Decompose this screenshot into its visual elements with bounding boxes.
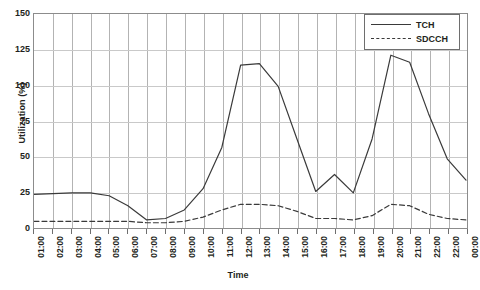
- x-tick-mark: [146, 229, 147, 234]
- x-tick-mark: [316, 229, 317, 234]
- x-tick-mark: [278, 229, 279, 234]
- x-tick-mark: [127, 229, 128, 234]
- legend-item-label: SDCCH: [413, 34, 448, 44]
- x-tick-label: 13:00: [263, 236, 272, 258]
- x-tick-label: 10:00: [207, 236, 216, 258]
- y-axis-tick-labels: 0255075100125150: [0, 0, 30, 290]
- legend-item: TCH: [369, 18, 455, 32]
- y-tick-label: 50: [0, 151, 30, 161]
- x-tick-label: 11:00: [226, 236, 235, 257]
- x-tick-label: 04:00: [94, 236, 103, 258]
- x-tick-mark: [410, 229, 411, 234]
- x-tick-mark: [241, 229, 242, 234]
- x-tick-label: 02:00: [56, 236, 65, 258]
- y-tick-label: 100: [0, 80, 30, 90]
- x-tick-label: 08:00: [169, 236, 178, 258]
- x-tick-label: 22:00: [452, 236, 461, 258]
- x-tick-label: 01:00: [37, 236, 46, 258]
- x-tick-mark: [203, 229, 204, 234]
- x-tick-mark: [52, 229, 53, 234]
- x-tick-label: 18:00: [358, 236, 367, 258]
- x-tick-label: 05:00: [112, 236, 121, 258]
- x-tick-label: 20:00: [396, 236, 405, 258]
- y-tick-label: 125: [0, 44, 30, 54]
- y-tick-label: 0: [0, 223, 30, 233]
- x-tick-mark: [335, 229, 336, 234]
- x-tick-label: 00:00: [471, 236, 480, 258]
- chart-legend: TCHSDCCH: [364, 14, 460, 50]
- x-tick-label: 17:00: [339, 236, 348, 258]
- x-tick-label: 21:00: [414, 236, 423, 258]
- legend-line-swatch: [369, 20, 413, 30]
- x-tick-label: 09:00: [188, 236, 197, 258]
- x-tick-mark: [392, 229, 393, 234]
- y-tick-label: 150: [0, 8, 30, 18]
- x-tick-mark: [71, 229, 72, 234]
- x-tick-label: 14:00: [282, 236, 291, 258]
- series-line-sdcch: [34, 204, 466, 222]
- x-tick-mark: [354, 229, 355, 234]
- x-tick-mark: [184, 229, 185, 234]
- y-tick-label: 75: [0, 116, 30, 126]
- x-tick-mark: [108, 229, 109, 234]
- x-tick-mark: [33, 229, 34, 234]
- x-axis-title: Time: [0, 270, 476, 280]
- legend-item-label: TCH: [413, 20, 435, 30]
- x-tick-mark: [429, 229, 430, 234]
- x-tick-mark: [259, 229, 260, 234]
- y-tick-label: 25: [0, 187, 30, 197]
- x-tick-label: 12:00: [245, 236, 254, 258]
- x-tick-label: 03:00: [75, 236, 84, 258]
- x-tick-mark: [297, 229, 298, 234]
- x-tick-mark: [373, 229, 374, 234]
- x-tick-mark: [467, 229, 468, 234]
- x-tick-label: 06:00: [131, 236, 140, 258]
- series-line-tch: [34, 55, 466, 220]
- x-tick-label: 19:00: [377, 236, 386, 258]
- x-tick-mark: [90, 229, 91, 234]
- x-tick-label: 15:00: [301, 236, 310, 258]
- x-tick-label: 22:00: [433, 236, 442, 258]
- x-tick-label: 07:00: [150, 236, 159, 258]
- legend-item: SDCCH: [369, 32, 455, 46]
- x-tick-mark: [165, 229, 166, 234]
- legend-line-swatch: [369, 34, 413, 44]
- x-tick-label: 16:00: [320, 236, 329, 258]
- x-tick-mark: [448, 229, 449, 234]
- x-tick-mark: [222, 229, 223, 234]
